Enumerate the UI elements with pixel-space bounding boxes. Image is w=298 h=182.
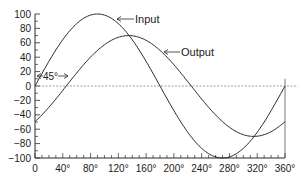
y-tick-label: 60	[20, 37, 32, 48]
y-tick-label: −80	[14, 138, 31, 149]
x-tick-label: 280°	[219, 163, 240, 174]
phase-annotation: 45°	[37, 71, 68, 82]
phase-label: 45°	[43, 71, 58, 82]
y-tick-label: −40	[14, 109, 31, 120]
x-tick-label: 120°	[108, 163, 129, 174]
x-tick-label: 360°	[275, 163, 296, 174]
y-tick-label: 20	[20, 66, 32, 77]
x-tick-label: 40°	[55, 163, 70, 174]
input-annotation: Input	[117, 13, 159, 25]
phase-shift-chart: 100806040200−20−40−60−80−100 040°80°120°…	[0, 0, 298, 182]
arrow-left-icon	[164, 50, 180, 55]
x-tick-label: 80°	[83, 163, 98, 174]
output-label: Output	[181, 46, 214, 58]
y-tick-label: 100	[14, 9, 31, 20]
y-tick-label: 80	[20, 23, 32, 34]
arrow-right-icon	[58, 74, 68, 79]
y-tick-label: −60	[14, 124, 31, 135]
x-tick-label: 200°	[164, 163, 185, 174]
x-tick-label: 160°	[136, 163, 157, 174]
y-tick-label: 40	[20, 52, 32, 63]
y-tick-label: −20	[14, 95, 31, 106]
y-tick-label: −100	[8, 153, 31, 164]
input-label: Input	[135, 13, 159, 25]
x-tick-label: 320°	[247, 163, 268, 174]
x-tick-label: 0	[32, 163, 38, 174]
y-tick-label: 0	[25, 81, 31, 92]
input-series-line	[35, 14, 285, 158]
x-tick-label: 240°	[191, 163, 212, 174]
output-annotation: Output	[164, 46, 214, 58]
arrow-left-icon	[117, 17, 134, 22]
